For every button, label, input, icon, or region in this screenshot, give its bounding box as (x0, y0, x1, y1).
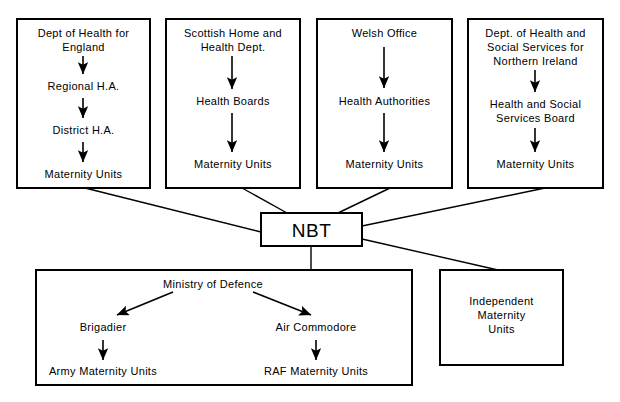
node-label-england-district-ha: District H.A. (22, 123, 145, 137)
connector-wales-to-nbt (338, 188, 390, 213)
node-label-independent-line1: Independent (440, 294, 563, 308)
node-label-scotland-maternity-units: Maternity Units (171, 157, 295, 171)
node-label-independent-line3: Units (440, 322, 563, 336)
node-label-wales-office: Welsh Office (322, 26, 447, 40)
node-label-air-commodore: Air Commodore (261, 320, 371, 334)
node-label-ministry-of-defence: Ministry of Defence (123, 277, 303, 291)
node-label-england-maternity-units: Maternity Units (22, 167, 145, 181)
node-label-england-regional-ha: Regional H.A. (22, 79, 145, 93)
node-label-wales-health-authorities: Health Authorities (322, 94, 447, 108)
node-label-nbt: NBT (261, 220, 362, 242)
node-label-scotland-health-boards: Health Boards (171, 94, 295, 108)
connector-ni-to-nbt (362, 188, 545, 226)
node-label-independent-line2: Maternity (440, 308, 563, 322)
node-label-raf-maternity-units: RAF Maternity Units (251, 364, 381, 378)
connector-nbt-to-independent (362, 239, 498, 270)
node-label-brigadier: Brigadier (58, 320, 148, 334)
connector-england-to-nbt (85, 188, 261, 232)
connector-scotland-to-nbt (242, 188, 287, 213)
node-label-army-maternity-units: Army Maternity Units (38, 364, 168, 378)
node-label-england-dept: Dept of Health for England (22, 26, 145, 54)
node-label-scotland-dept: Scottish Home and Health Dept. (171, 26, 295, 54)
node-label-ni-dept: Dept. of Health and Social Services for … (473, 26, 598, 68)
diagram-canvas: Dept of Health for England Regional H.A.… (0, 0, 620, 402)
node-label-wales-maternity-units: Maternity Units (322, 157, 447, 171)
node-label-ni-board: Health and Social Services Board (473, 97, 598, 125)
node-label-ni-maternity-units: Maternity Units (473, 157, 598, 171)
